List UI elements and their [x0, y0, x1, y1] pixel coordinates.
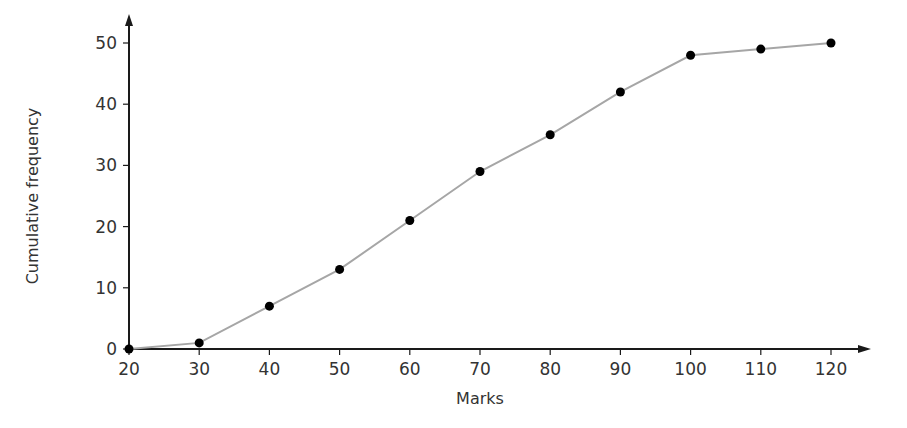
x-tick-label: 50 — [329, 359, 351, 379]
y-tick-label: 20 — [95, 217, 117, 237]
cumulative-frequency-chart: 010203040502030405060708090100110120 Mar… — [0, 0, 907, 428]
x-tick-label: 30 — [188, 359, 210, 379]
data-point — [616, 87, 625, 96]
x-tick-label: 20 — [118, 359, 140, 379]
x-tick-label: 80 — [539, 359, 561, 379]
data-point — [546, 130, 555, 139]
x-tick-label: 110 — [745, 359, 777, 379]
data-point — [195, 338, 204, 347]
y-tick-label: 0 — [106, 339, 117, 359]
data-point — [476, 167, 485, 176]
x-axis-arrow-icon — [858, 345, 871, 353]
y-tick-label: 40 — [95, 94, 117, 114]
x-tick-label: 70 — [469, 359, 491, 379]
x-tick-label: 100 — [674, 359, 706, 379]
axes: 010203040502030405060708090100110120 — [95, 14, 871, 379]
y-tick-label: 50 — [95, 33, 117, 53]
x-tick-label: 90 — [610, 359, 632, 379]
data-point — [756, 45, 765, 54]
x-tick-label: 40 — [259, 359, 281, 379]
data-point — [335, 265, 344, 274]
data-point — [265, 302, 274, 311]
x-tick-label: 60 — [399, 359, 421, 379]
series-layer — [125, 39, 836, 354]
x-tick-label: 120 — [815, 359, 847, 379]
y-tick-label: 10 — [95, 278, 117, 298]
data-point — [686, 51, 695, 60]
data-point — [125, 345, 134, 354]
y-axis-title: Cumulative frequency — [23, 108, 42, 285]
y-axis-arrow-icon — [125, 14, 133, 26]
data-point — [405, 216, 414, 225]
x-axis-title: Marks — [456, 389, 504, 408]
series-line — [129, 43, 831, 349]
data-point — [827, 39, 836, 48]
y-tick-label: 30 — [95, 155, 117, 175]
